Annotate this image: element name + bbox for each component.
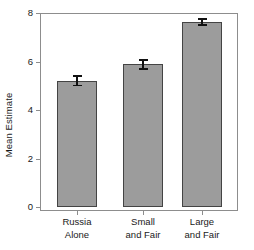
x-label-line1: Large [162,216,242,229]
x-label-line2: and Fair [162,229,242,242]
y-tick-8: 8 [0,13,40,14]
error-bar-cap-upper [73,75,82,77]
y-tick-4: 4 [0,110,40,111]
y-tick-2: 2 [0,159,40,160]
bar-russia-alone[interactable] [57,81,97,207]
y-axis-title: Mean Estimate [0,0,16,250]
y-tick-label: 4 [28,103,33,116]
y-tick-0: 0 [0,207,40,208]
y-tick-label: 8 [28,6,33,19]
x-tick-line-1 [143,211,144,215]
y-tick-label: 6 [28,55,33,68]
error-bar-cap-lower [73,85,82,87]
error-bar-cap-lower [139,68,148,70]
x-tick-label-large-and-fair: Large and Fair [162,216,242,241]
y-tick-label: 2 [28,152,33,165]
error-bar-cap-upper [198,18,207,20]
x-tick-line-2 [202,211,203,215]
bar-large-and-fair[interactable] [182,22,222,207]
error-bar-cap-lower [198,24,207,26]
x-tick-line-0 [77,211,78,215]
y-tick-6: 6 [0,62,40,63]
bar-small-and-fair[interactable] [123,64,163,207]
error-bar-cap-upper [139,59,148,61]
y-tick-label: 0 [28,200,33,213]
bar-chart-figure: Mean Estimate 8 6 4 2 0 Russia Alone Sma… [0,0,254,250]
